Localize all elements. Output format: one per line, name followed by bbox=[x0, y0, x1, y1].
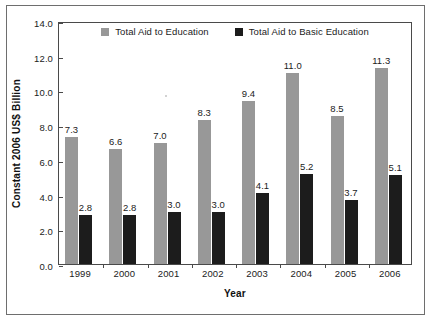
y-axis-tick-label: 6.0 bbox=[39, 156, 59, 167]
x-axis-tick-label-2005: 2005 bbox=[324, 268, 368, 284]
scan-artifact bbox=[165, 95, 167, 97]
legend-entry-1[interactable]: Total Aid to Basic Education bbox=[235, 26, 369, 37]
bar-value-label: 11.0 bbox=[284, 60, 302, 71]
bar-2002-series-1: 3.0 bbox=[212, 212, 225, 264]
x-axis-tick-label-1999: 1999 bbox=[58, 268, 102, 284]
bar-2000-series-1: 2.8 bbox=[123, 215, 136, 264]
bar-2002-series-0: 8.3 bbox=[198, 120, 211, 264]
legend-swatch-icon bbox=[101, 28, 109, 36]
chart-legend: Total Aid to EducationTotal Aid to Basic… bbox=[58, 26, 412, 37]
bar-value-label: 9.4 bbox=[242, 88, 256, 99]
y-axis-title-text: Constant 2006 US$ Billion bbox=[11, 79, 22, 208]
bar-group-2006: 11.35.1 bbox=[369, 23, 413, 264]
bar-group-2002: 8.33.0 bbox=[192, 23, 236, 264]
x-axis-tick-label-2003: 2003 bbox=[235, 268, 279, 284]
bar-value-label: 3.0 bbox=[167, 199, 181, 210]
bar-group-2005: 8.53.7 bbox=[325, 23, 369, 264]
y-axis-tick-label: 2.0 bbox=[39, 226, 59, 237]
y-axis-tick-label: 8.0 bbox=[39, 122, 59, 133]
bar-2003-series-1: 4.1 bbox=[256, 193, 269, 264]
bar-2001-series-1: 3.0 bbox=[168, 212, 181, 264]
x-axis-tick-label-2002: 2002 bbox=[191, 268, 235, 284]
bar-2006-series-0: 11.3 bbox=[375, 68, 388, 264]
bars-layer: 7.32.86.62.87.03.08.33.09.44.111.05.28.5… bbox=[59, 23, 411, 264]
legend-entry-0[interactable]: Total Aid to Education bbox=[101, 26, 209, 37]
bar-1999-series-0: 7.3 bbox=[65, 137, 78, 264]
bar-2004-series-1: 5.2 bbox=[300, 174, 313, 264]
bar-value-label: 3.7 bbox=[344, 187, 358, 198]
bar-value-label: 11.3 bbox=[372, 55, 390, 66]
bar-value-label: 2.8 bbox=[123, 202, 137, 213]
bar-value-label: 8.5 bbox=[330, 103, 344, 114]
bar-value-label: 2.8 bbox=[79, 202, 93, 213]
x-axis-tick-label-2004: 2004 bbox=[279, 268, 323, 284]
bar-group-2003: 9.44.1 bbox=[236, 23, 280, 264]
bar-group-2004: 11.05.2 bbox=[280, 23, 324, 264]
y-axis-title: Constant 2006 US$ Billion bbox=[8, 22, 24, 265]
x-axis-tick-labels: 19992000200120022003200420052006 bbox=[58, 268, 412, 284]
bar-value-label: 5.2 bbox=[300, 161, 314, 172]
legend-swatch-icon bbox=[235, 28, 243, 36]
y-axis-tick-label: 12.0 bbox=[34, 52, 59, 63]
x-axis-tick-label-2001: 2001 bbox=[147, 268, 191, 284]
bar-2006-series-1: 5.1 bbox=[389, 175, 402, 264]
plot-area: 14.012.010.08.06.04.02.00.0 7.32.86.62.8… bbox=[58, 22, 412, 265]
bar-2005-series-0: 8.5 bbox=[331, 116, 344, 264]
bar-2003-series-0: 9.4 bbox=[242, 101, 255, 264]
legend-label: Total Aid to Basic Education bbox=[249, 26, 369, 37]
bar-group-2000: 6.62.8 bbox=[103, 23, 147, 264]
bar-2004-series-0: 11.0 bbox=[286, 73, 299, 264]
bar-value-label: 4.1 bbox=[256, 180, 270, 191]
bar-value-label: 6.6 bbox=[109, 136, 123, 147]
bar-value-label: 8.3 bbox=[197, 107, 211, 118]
bar-value-label: 5.1 bbox=[388, 162, 402, 173]
bar-2001-series-0: 7.0 bbox=[154, 143, 167, 265]
y-axis-tick-mark bbox=[59, 266, 63, 267]
bar-value-label: 7.3 bbox=[65, 124, 79, 135]
x-axis-title: Year bbox=[58, 288, 412, 299]
bar-value-label: 3.0 bbox=[211, 199, 225, 210]
y-axis-tick-label: 0.0 bbox=[39, 261, 59, 272]
bar-2005-series-1: 3.7 bbox=[345, 200, 358, 264]
legend-label: Total Aid to Education bbox=[115, 26, 209, 37]
y-axis-tick-label: 4.0 bbox=[39, 191, 59, 202]
x-axis-tick-label-2006: 2006 bbox=[368, 268, 412, 284]
y-axis-tick-label: 14.0 bbox=[34, 18, 59, 29]
bar-1999-series-1: 2.8 bbox=[79, 215, 92, 264]
chart-figure: Constant 2006 US$ Billion 14.012.010.08.… bbox=[0, 0, 437, 324]
bar-group-2001: 7.03.0 bbox=[148, 23, 192, 264]
bar-2000-series-0: 6.6 bbox=[109, 149, 122, 264]
bar-value-label: 7.0 bbox=[153, 130, 167, 141]
bar-group-1999: 7.32.8 bbox=[59, 23, 103, 264]
x-axis-tick-label-2000: 2000 bbox=[102, 268, 146, 284]
y-axis-tick-label: 10.0 bbox=[34, 87, 59, 98]
